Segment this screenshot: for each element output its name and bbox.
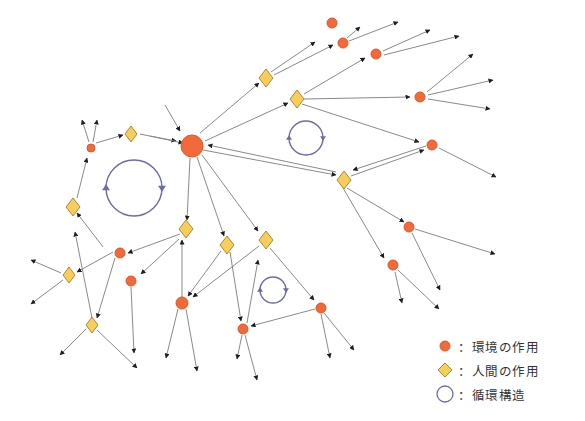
influence-arrow — [347, 27, 360, 38]
influence-arrow — [82, 120, 89, 142]
legend: ：環境の作用 ：人間の作用 ：循環構造 — [434, 334, 584, 406]
influence-arrow — [97, 330, 137, 368]
influence-arrow — [97, 258, 115, 318]
influence-arrow — [208, 145, 336, 172]
influence-arrow — [188, 251, 221, 296]
human-node-icon — [337, 171, 351, 189]
influence-arrow — [165, 105, 180, 131]
influence-arrow — [203, 150, 336, 175]
influence-arrow — [230, 252, 241, 321]
environment-node-icon — [388, 260, 398, 270]
environment-node-icon — [115, 248, 125, 258]
cycle-large-icon — [102, 160, 166, 216]
blue-ring-icon — [434, 384, 456, 404]
influence-arrow — [187, 158, 190, 220]
influence-arrow — [395, 272, 402, 303]
environment-node-icon — [87, 144, 95, 152]
influence-arrow — [349, 22, 398, 41]
environment-node-icon — [427, 140, 437, 150]
influence-arrow — [245, 335, 257, 380]
influence-arrow — [193, 246, 259, 297]
yellow-diamond-icon — [434, 360, 456, 380]
human-node-icon — [86, 317, 98, 333]
influence-arrow — [186, 309, 197, 371]
influence-arrow — [304, 58, 365, 94]
influence-arrow — [247, 260, 258, 323]
influence-arrow — [415, 229, 495, 254]
influence-arrow — [77, 158, 87, 198]
influence-arrow — [270, 248, 314, 300]
legend-item-environment: ：環境の作用 — [434, 334, 584, 358]
influence-arrow — [353, 146, 426, 170]
influence-arrow — [428, 80, 493, 95]
influence-arrow — [96, 135, 123, 143]
node-layer — [63, 18, 437, 334]
influence-arrow — [237, 335, 242, 359]
human-node-icon — [290, 90, 304, 108]
influence-arrow — [60, 329, 86, 355]
human-node-icon — [66, 198, 80, 216]
environment-node-icon — [338, 38, 348, 48]
influence-arrow — [321, 314, 330, 358]
influence-arrow — [200, 83, 259, 133]
human-node-icon — [63, 267, 75, 283]
cycle-small-icon — [257, 277, 289, 303]
influence-arrow — [351, 150, 424, 176]
human-node-icon — [220, 236, 234, 254]
influence-arrow — [141, 239, 179, 274]
environment-node-icon — [327, 18, 337, 28]
influence-arrow — [75, 232, 92, 318]
influence-arrow — [412, 233, 440, 290]
legend-label: ：人間の作用 — [458, 361, 539, 380]
influence-arrow — [31, 280, 63, 304]
orange-circle-icon — [434, 336, 456, 356]
legend-label: ：循環構造 — [458, 385, 526, 404]
influence-arrow — [383, 30, 430, 51]
human-node-icon — [179, 220, 193, 238]
legend-item-human: ：人間の作用 — [434, 358, 584, 382]
legend-item-cycle: ：循環構造 — [434, 382, 584, 406]
human-node-icon — [259, 231, 273, 249]
influence-arrow — [202, 155, 258, 231]
influence-arrow — [324, 313, 354, 350]
influence-arrow — [131, 287, 134, 353]
cycle-right-icon — [286, 121, 326, 155]
environment-node-icon — [404, 222, 414, 232]
influence-arrow — [343, 188, 384, 258]
human-node-icon — [125, 126, 137, 142]
influence-arrow — [140, 134, 183, 143]
influence-arrow — [31, 260, 61, 273]
influence-arrow — [77, 213, 103, 247]
influence-arrow — [197, 157, 224, 236]
influence-arrow — [304, 97, 410, 99]
influence-arrow — [439, 148, 496, 177]
environment-node-icon — [316, 303, 326, 313]
environment-node-icon — [176, 297, 188, 309]
influence-arrow — [347, 188, 404, 222]
legend-label: ：環境の作用 — [458, 337, 539, 356]
influence-arrow — [205, 103, 288, 141]
influence-arrow — [166, 309, 178, 358]
environment-node-icon — [371, 49, 381, 59]
cycle-layer — [102, 121, 326, 303]
influence-arrow — [251, 309, 315, 326]
environment-node-icon — [181, 135, 203, 157]
influence-arrow — [302, 104, 419, 142]
environment-node-icon — [238, 324, 248, 334]
environment-node-icon — [126, 276, 136, 286]
influence-arrow — [128, 234, 180, 253]
influence-arrow — [428, 99, 490, 109]
environment-node-icon — [415, 92, 425, 102]
influence-arrow — [93, 120, 97, 142]
